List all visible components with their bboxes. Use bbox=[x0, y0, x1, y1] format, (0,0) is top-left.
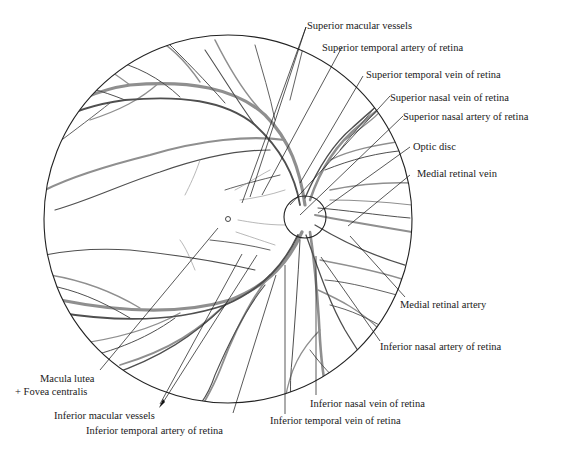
label-inferior-temporal-artery: Inferior temporal artery of retina bbox=[86, 425, 223, 437]
label-superior-temporal-vein: Superior temporal vein of retina bbox=[366, 69, 501, 81]
label-medial-retinal-artery: Medial retinal artery bbox=[400, 299, 486, 311]
label-inferior-macular-vessels: Inferior macular vessels bbox=[54, 410, 155, 422]
label-inferior-nasal-artery: Inferior nasal artery of retina bbox=[380, 341, 501, 353]
label-macula-lutea: Macula lutea bbox=[40, 373, 95, 385]
retinal-arteries bbox=[45, 40, 410, 410]
label-superior-nasal-vein: Superior nasal vein of retina bbox=[390, 92, 509, 104]
fovea-marker bbox=[226, 217, 231, 222]
label-superior-temporal-artery: Superior temporal artery of retina bbox=[322, 42, 463, 54]
macular-vessels bbox=[180, 160, 285, 270]
label-medial-retinal-vein: Medial retinal vein bbox=[417, 168, 497, 180]
retina-diagram: Superior macular vessels Superior tempor… bbox=[0, 0, 565, 454]
label-optic-disc: Optic disc bbox=[413, 141, 456, 153]
label-superior-nasal-artery: Superior nasal artery of retina bbox=[403, 111, 528, 123]
label-inferior-nasal-vein: Inferior nasal vein of retina bbox=[310, 398, 425, 410]
label-fovea-centralis: + Fovea centralis bbox=[15, 386, 87, 398]
label-superior-macular-vessels: Superior macular vessels bbox=[307, 20, 412, 32]
label-inferior-temporal-vein: Inferior temporal vein of retina bbox=[270, 415, 401, 427]
